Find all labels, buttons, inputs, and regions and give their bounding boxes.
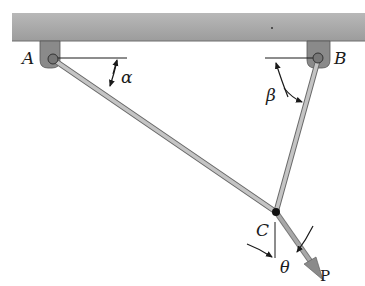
- label-c: C: [256, 222, 269, 239]
- angle-alpha-indicator: [110, 60, 117, 86]
- member-ac: [54, 60, 276, 212]
- label-alpha: α: [121, 69, 132, 86]
- pin-a: [48, 54, 58, 64]
- angle-beta-indicator: [276, 63, 302, 102]
- pin-b: [313, 53, 323, 63]
- label-b: B: [334, 50, 347, 67]
- ceiling-support: [12, 13, 365, 41]
- label-p: P: [320, 269, 330, 284]
- label-beta: β: [266, 87, 276, 104]
- diagram-canvas: [0, 0, 365, 286]
- label-theta: θ: [280, 260, 290, 276]
- joint-c: [272, 208, 280, 216]
- truss-diagram: A B C P α β θ: [0, 0, 365, 286]
- label-a: A: [22, 50, 34, 67]
